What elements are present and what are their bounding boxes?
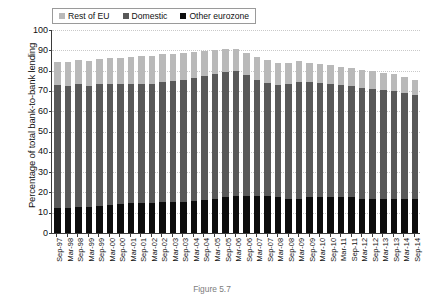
- bar-segment: [391, 91, 398, 199]
- x-tick-mark: [382, 234, 383, 237]
- x-tick-mark: [203, 234, 204, 237]
- x-tick-mark: [161, 234, 162, 237]
- bar-column: [389, 30, 400, 233]
- bar-column: [346, 30, 357, 233]
- bar-segment: [275, 85, 282, 198]
- bar-segment: [96, 206, 103, 233]
- x-tick-mark: [267, 234, 268, 237]
- bar-segment: [117, 84, 124, 204]
- x-tick-mark: [393, 234, 394, 237]
- bar-column: [73, 30, 84, 233]
- bar-stack: [317, 30, 324, 233]
- bar-column: [178, 30, 189, 233]
- bar-segment: [391, 74, 398, 91]
- x-tick-mark: [288, 234, 289, 237]
- x-tick-mark: [182, 234, 183, 237]
- bar-segment: [401, 77, 408, 93]
- bar-stack: [96, 30, 103, 233]
- bar-segment: [338, 67, 345, 85]
- bar-segment: [243, 75, 250, 197]
- bar-stack: [86, 30, 93, 233]
- x-label-cell: Sep-09: [303, 238, 314, 290]
- bar-segment: [348, 68, 355, 86]
- x-tick-mark: [340, 234, 341, 237]
- bar-segment: [380, 73, 387, 90]
- x-label-cell: Sep-08: [282, 238, 293, 290]
- bar-segment: [180, 80, 187, 202]
- bar-segment: [264, 60, 271, 82]
- x-label-cell: Mar-13: [377, 238, 388, 290]
- bar-stack: [222, 30, 229, 233]
- bar-segment: [233, 49, 240, 70]
- bar-stack: [391, 30, 398, 233]
- bar-segment: [180, 53, 187, 79]
- bar-segment: [233, 71, 240, 197]
- bar-column: [273, 30, 284, 233]
- bar-stack: [54, 30, 61, 233]
- bar-segment: [369, 89, 376, 199]
- bar-segment: [243, 53, 250, 74]
- bar-column: [52, 30, 63, 233]
- bar-segment: [380, 199, 387, 234]
- bar-segment: [285, 84, 292, 199]
- bar-segment: [306, 63, 313, 82]
- bar-column: [136, 30, 147, 233]
- bar-column: [252, 30, 263, 233]
- y-tick-label-60: 60: [26, 107, 48, 116]
- y-tick-label-100: 100: [26, 26, 48, 35]
- bar-segment: [107, 84, 114, 205]
- bar-stack: [296, 30, 303, 233]
- x-label-cell: Mar-05: [209, 238, 220, 290]
- bar-column: [399, 30, 410, 233]
- y-tick-label-10: 10: [26, 208, 48, 217]
- x-label-cell: Sep-11: [345, 238, 356, 290]
- bar-segment: [138, 203, 145, 233]
- bar-segment: [264, 196, 271, 233]
- bar-segment: [170, 202, 177, 233]
- bar-segment: [128, 57, 135, 83]
- bar-stack: [338, 30, 345, 233]
- bar-segment: [86, 86, 93, 207]
- bar-segment: [128, 203, 135, 233]
- x-label-cell: Mar-14: [398, 238, 409, 290]
- bar-segment: [391, 199, 398, 234]
- x-tick-mark: [98, 234, 99, 237]
- bar-column: [304, 30, 315, 233]
- bar-segment: [222, 72, 229, 198]
- bar-segment: [275, 63, 282, 85]
- bar-column: [94, 30, 105, 233]
- bar-segment: [222, 197, 229, 233]
- bar-segment: [138, 56, 145, 83]
- y-tick-label-50: 50: [26, 127, 48, 136]
- bar-segment: [359, 199, 366, 234]
- x-axis-tick-labels: Sep-97Mar-98Sep-98Mar-99Sep-99Mar-00Sep-…: [51, 238, 419, 290]
- bar-segment: [75, 84, 82, 207]
- bar-stack: [65, 30, 72, 233]
- x-label-cell: Mar-04: [188, 238, 199, 290]
- x-tick-mark: [256, 234, 257, 237]
- x-tick-mark: [361, 234, 362, 237]
- bar-segment: [338, 197, 345, 233]
- x-tick-mark: [77, 234, 78, 237]
- bar-stack: [264, 30, 271, 233]
- x-label-cell: Sep-13: [388, 238, 399, 290]
- bar-segment: [264, 83, 271, 197]
- bar-stack: [201, 30, 208, 233]
- x-tick-mark: [319, 234, 320, 237]
- bar-column: [241, 30, 252, 233]
- bar-stack: [117, 30, 124, 233]
- bar-stack: [107, 30, 114, 233]
- bar-segment: [359, 88, 366, 199]
- bar-segment: [149, 56, 156, 83]
- bar-stack: [159, 30, 166, 233]
- x-tick-mark: [193, 234, 194, 237]
- bar-segment: [191, 201, 198, 233]
- y-tick-label-0: 0: [26, 229, 48, 238]
- bar-column: [199, 30, 210, 233]
- bar-segment: [327, 65, 334, 84]
- x-tick-mark: [56, 234, 57, 237]
- legend-item: Domestic: [123, 12, 168, 21]
- legend-swatch-icon: [180, 13, 186, 19]
- bar-stack: [412, 30, 419, 233]
